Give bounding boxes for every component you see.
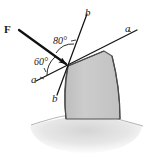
- axis-a-label-upper: a: [125, 23, 131, 34]
- axis-b-label-upper: b: [85, 7, 91, 18]
- force-label: F: [4, 24, 11, 35]
- block-body: [65, 51, 120, 119]
- axis-b-label-lower: b: [52, 93, 58, 104]
- mechanics-figure: F 80° 60° a a b b: [0, 0, 156, 165]
- angle-label-80: 80°: [53, 36, 67, 46]
- ground-shadow: [30, 116, 143, 153]
- figure-canvas: [0, 0, 156, 165]
- axis-a-label-lower: a: [31, 74, 37, 85]
- angle-label-60: 60°: [34, 57, 48, 67]
